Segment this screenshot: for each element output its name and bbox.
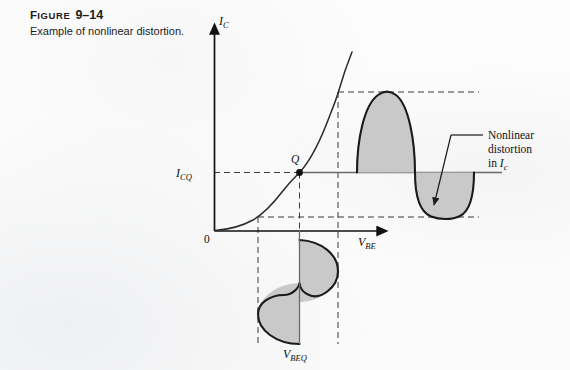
input-waveform <box>258 231 338 344</box>
figure-container: FIGURE9–14 Example of nonlinear distorti… <box>0 0 570 370</box>
x-axis-label-sub: BE <box>365 241 376 251</box>
callout-line-3: in Ic <box>488 157 508 172</box>
x-axis-label: VBE <box>358 235 377 251</box>
callout-line-2: distortion <box>488 143 532 155</box>
plot-text-labels: IC VBE 0 ICQ Q VBEQ Nonlinear distortion… <box>175 14 534 363</box>
origin-label: 0 <box>204 233 210 245</box>
y-axis-label: IC <box>218 14 229 30</box>
nonlinear-distortion-plot: IC VBE 0 ICQ Q VBEQ Nonlinear distortion… <box>0 0 570 370</box>
callout-line-1: Nonlinear <box>488 129 534 141</box>
icq-label: ICQ <box>175 166 192 182</box>
exponential-curve-path <box>215 52 352 231</box>
icq-label-sub: CQ <box>180 172 192 182</box>
vbeq-label: VBEQ <box>283 347 307 363</box>
y-axis-label-sub: C <box>223 20 229 30</box>
output-waveform <box>357 92 474 219</box>
callout-line-3-sub: c <box>504 162 508 172</box>
axes <box>215 33 379 231</box>
callout-line-3-prefix: in <box>488 157 500 169</box>
q-point-label: Q <box>291 153 300 165</box>
output-positive-halfcycle-fill <box>357 92 415 173</box>
vbeq-label-sub: BEQ <box>290 353 307 363</box>
transfer-characteristic-curve <box>215 52 352 231</box>
q-point-marker <box>296 169 303 176</box>
